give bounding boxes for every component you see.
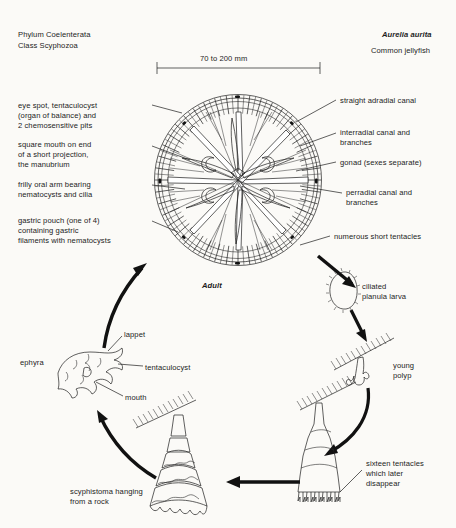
- ephyra-lappets: [65, 354, 101, 384]
- arrow-sixteen-to-scyphistoma: [226, 476, 300, 488]
- planula-cilia: [326, 268, 361, 313]
- leader-lines-right: [296, 100, 342, 245]
- sixteen-tentacle-polyp: [297, 376, 362, 502]
- substrate-hatching-2: [297, 376, 352, 409]
- ephyra: [58, 336, 143, 398]
- arrow-planula-to-polyp: [351, 310, 367, 342]
- arrow-polyp-to-sixteen: [324, 388, 369, 456]
- sixteen-tentacles-fringe: [298, 492, 340, 502]
- planula-larva: [326, 268, 361, 313]
- arrow-ephyra-to-adult: [104, 263, 147, 348]
- substrate-hatching: [331, 333, 391, 369]
- jellyfish-lifecycle-diagram: Phylum Coelenterata Class Scyphozoa Aure…: [0, 0, 456, 528]
- scyphistoma: [133, 391, 207, 515]
- diagram-vector-layer: [0, 0, 456, 528]
- scale-bar: [157, 62, 320, 74]
- young-polyp: [331, 333, 394, 385]
- arrow-adult-to-planula: [318, 256, 356, 288]
- adult-medusa: [155, 95, 322, 266]
